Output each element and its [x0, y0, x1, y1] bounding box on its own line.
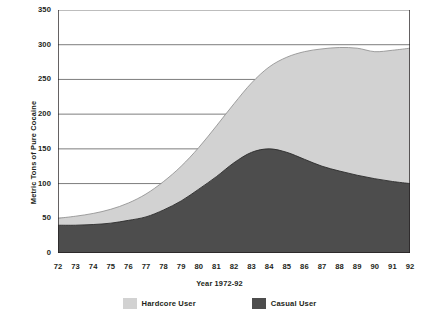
x-tick-77: 77 [137, 262, 155, 271]
x-tick-92: 92 [401, 262, 419, 271]
x-tick-84: 84 [260, 262, 278, 271]
y-tick-350: 350 [25, 5, 51, 14]
x-tick-80: 80 [190, 262, 208, 271]
legend-label: Casual User [271, 299, 317, 308]
legend-item-hardcore-user[interactable]: Hardcore User [123, 298, 196, 309]
y-tick-150: 150 [25, 144, 51, 153]
x-tick-90: 90 [366, 262, 384, 271]
cocaine-consumption-area-chart: Metric Tons of Pure Cocaine 050100150200… [0, 0, 439, 325]
y-tick-200: 200 [25, 109, 51, 118]
x-tick-82: 82 [225, 262, 243, 271]
x-tick-78: 78 [155, 262, 173, 271]
y-tick-100: 100 [25, 179, 51, 188]
x-tick-73: 73 [67, 262, 85, 271]
x-tick-75: 75 [102, 262, 120, 271]
legend-label: Hardcore User [142, 299, 196, 308]
y-tick-250: 250 [25, 74, 51, 83]
y-tick-0: 0 [25, 248, 51, 257]
x-tick-76: 76 [119, 262, 137, 271]
legend-item-casual-user[interactable]: Casual User [252, 298, 317, 309]
chart-legend: Hardcore UserCasual User [0, 298, 439, 309]
x-tick-72: 72 [49, 262, 67, 271]
x-tick-79: 79 [172, 262, 190, 271]
legend-swatch-icon [252, 298, 266, 309]
x-tick-81: 81 [207, 262, 225, 271]
plot-svg [58, 10, 410, 253]
x-axis-title: Year 1972-92 [0, 279, 439, 288]
x-tick-86: 86 [295, 262, 313, 271]
x-tick-89: 89 [348, 262, 366, 271]
plot-area [58, 10, 410, 253]
x-tick-83: 83 [243, 262, 261, 271]
legend-swatch-icon [123, 298, 137, 309]
x-tick-85: 85 [278, 262, 296, 271]
x-tick-88: 88 [331, 262, 349, 271]
x-tick-91: 91 [383, 262, 401, 271]
x-tick-74: 74 [84, 262, 102, 271]
y-tick-300: 300 [25, 40, 51, 49]
y-tick-50: 50 [25, 213, 51, 222]
x-tick-87: 87 [313, 262, 331, 271]
